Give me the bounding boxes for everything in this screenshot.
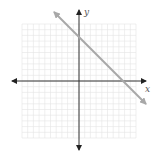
plotted-line	[54, 12, 79, 37]
y-axis-label: y	[83, 7, 90, 17]
coordinate-plane: y x	[0, 0, 157, 154]
x-axis-label: x	[145, 84, 150, 94]
